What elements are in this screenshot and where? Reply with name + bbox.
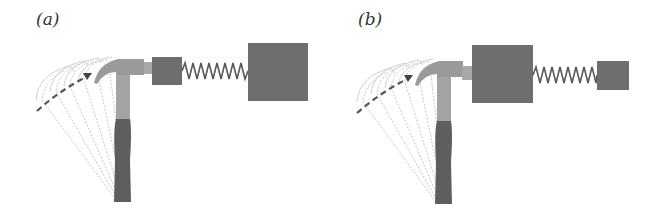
- small-mass: [152, 57, 182, 85]
- large-mass: [472, 45, 533, 103]
- hammer-handle-shaft: [437, 77, 451, 122]
- ghost-hammer-traces: [42, 60, 126, 200]
- hammer-face: [144, 62, 153, 74]
- spring: [533, 67, 597, 83]
- hammer-grip: [114, 119, 131, 202]
- ghost-hammer-traces: [363, 62, 446, 202]
- swing-arrow: [357, 78, 409, 113]
- spring: [182, 63, 248, 79]
- swing-arrow: [37, 76, 88, 111]
- small-mass: [597, 61, 629, 90]
- panel-b-drawing: [325, 0, 651, 219]
- hammer-handle-shaft: [116, 75, 130, 120]
- panel-b: (b): [325, 0, 650, 219]
- hammer-face: [462, 66, 472, 80]
- panel-a: (a): [0, 0, 325, 219]
- large-mass: [248, 43, 308, 101]
- panel-a-drawing: [0, 0, 325, 219]
- hammer-grip: [435, 121, 452, 204]
